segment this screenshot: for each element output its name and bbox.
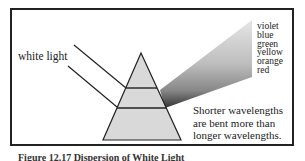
note-line: Shorter wavelengths [193,104,283,117]
spectrum-fan [160,20,252,108]
white-light-label: white light [18,51,68,63]
light-ray-2 [68,66,117,107]
figure-caption: Figure 12.17 Dispersion of White Light [18,152,184,161]
note-line: are bent more than [193,117,283,130]
spectrum-labels: violet blue green yellow orange red [257,22,283,75]
note-line: longer wavelengths. [193,129,283,142]
wavelength-note: Shorter wavelengths are bent more than l… [193,104,283,142]
label-red: red [257,66,283,75]
light-ray-1 [74,45,126,88]
